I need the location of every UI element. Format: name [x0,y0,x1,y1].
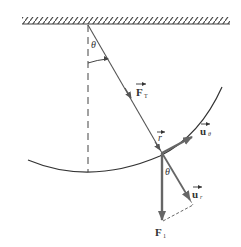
position-label-main: r [158,132,162,143]
unit-r-label-main: u [192,188,198,200]
component-dashed-line [163,205,193,221]
weight-label-sub: 1 [163,233,166,239]
tension-label-sub: T [144,93,148,99]
component-dashed-line-2 [190,200,193,205]
position-label: r [157,132,165,143]
unit-theta-label-sub: θ [208,131,211,137]
weight-label: F 1 [155,226,166,239]
unit-theta-label: u θ [200,124,211,137]
weight-label-main: F [155,226,162,238]
theta-label-top: θ [91,39,96,50]
unit-r-label-sub: r [200,194,203,200]
unit-theta-label-main: u [200,125,206,137]
theta-label-bottom: θ [165,166,170,177]
circular-path-arc [28,87,222,172]
unit-vector-theta [162,137,192,153]
ceiling-support [22,17,230,24]
tension-label-main: F [136,86,143,98]
tension-label: F T [136,84,148,99]
position-vector [155,142,160,150]
pendulum-diagram: θ F T r u θ θ u r F 1 [0,0,241,247]
unit-r-label: u r [192,187,203,200]
tension-vector [125,88,131,98]
